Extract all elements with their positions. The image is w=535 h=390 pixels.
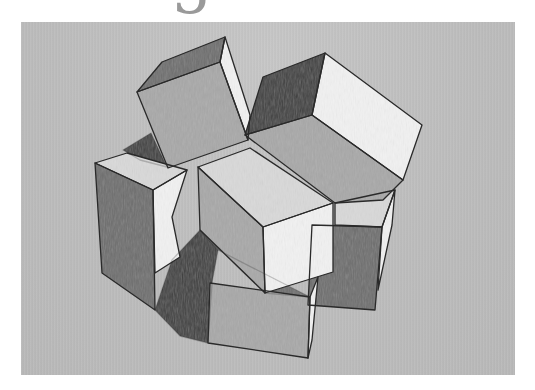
cube-drawing <box>0 0 535 390</box>
